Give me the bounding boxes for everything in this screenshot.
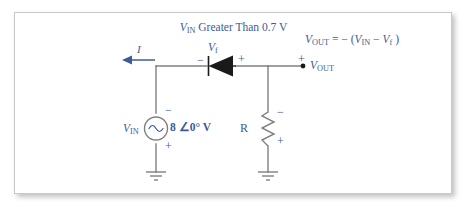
ac-voltage-source-symbol [145,117,168,140]
resistor-minus-sign: − [277,106,284,118]
source-label-var: V [123,122,130,134]
current-arrow-head [122,56,132,65]
ground-right [258,172,278,180]
source-label: VIN [123,123,139,136]
diode-plus-sign: + [238,53,245,65]
output-label: VOUT [310,60,334,73]
resistor-plus-sign: + [277,135,284,147]
source-value: 8 ∠0° V [170,122,211,134]
diode-triangle [209,56,234,77]
resistor-label: R [240,122,248,134]
ground-left [146,172,166,180]
output-plus-sign: + [298,53,305,65]
diode-label-sub: f [215,46,218,55]
source-label-sub: IN [130,127,139,136]
diode-symbol [209,56,237,77]
output-label-var: V [310,59,317,71]
current-label: I [137,44,141,55]
diode-minus-sign: − [197,54,204,66]
source-plus-sign: + [165,140,172,152]
resistor-zigzag [262,112,274,146]
diode-label: Vf [208,42,218,55]
diode-label-var: V [208,41,215,53]
circuit-schematic-svg [0,0,467,223]
output-label-sub: OUT [317,64,334,73]
source-minus-sign: − [165,104,172,116]
wire-group [156,66,302,172]
current-arrow-icon [122,56,155,65]
figure-root: VIN Greater Than 0.7 V VOUT = − (VIN − V… [0,0,467,223]
